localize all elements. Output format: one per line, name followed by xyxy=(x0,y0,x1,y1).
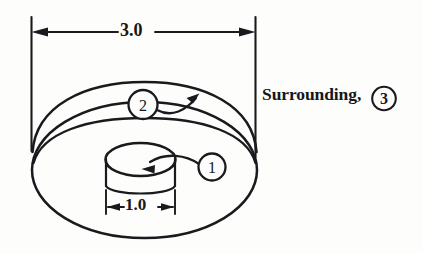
engineering-diagram: 2 1 3 xyxy=(0,0,423,254)
inner-cylinder-bottom-arc xyxy=(106,186,175,194)
callout-2-arrowhead xyxy=(187,94,200,104)
figure-canvas: 2 1 3 3.0 1.0 Surrounding, xyxy=(0,0,423,254)
surrounding-label: Surrounding, xyxy=(262,86,361,104)
arrowhead-3-left xyxy=(32,27,49,36)
callout-1-arrowhead xyxy=(142,165,156,174)
inner-cylinder-top-ellipse xyxy=(106,143,176,176)
arrowhead-1dim-left xyxy=(107,203,120,211)
arrowhead-3-right xyxy=(239,27,256,36)
dimension-label-overall: 3.0 xyxy=(120,21,143,39)
arrowhead-1dim-right xyxy=(161,203,174,211)
callout-1-number: 1 xyxy=(208,159,216,176)
surrounding-circled-number: 3 xyxy=(380,90,388,107)
dimension-label-inner: 1.0 xyxy=(125,196,146,213)
top-surface-front-rim xyxy=(34,118,256,163)
callout-2-number: 2 xyxy=(139,97,147,114)
